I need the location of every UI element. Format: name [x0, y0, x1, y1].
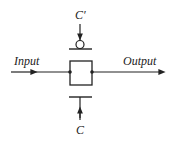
control-input: [69, 97, 92, 120]
input-node-dot: [68, 70, 72, 74]
output-label: Output: [123, 54, 157, 68]
inversion-bubble-icon: [76, 41, 84, 49]
control-bar-label: C′: [75, 8, 86, 22]
gate-box: [70, 61, 92, 85]
input-label: Input: [13, 54, 40, 68]
control-bar-input: [69, 24, 92, 49]
control-label: C: [76, 123, 85, 137]
transmission-gate-diagram: Input Output C′ C: [0, 0, 171, 143]
